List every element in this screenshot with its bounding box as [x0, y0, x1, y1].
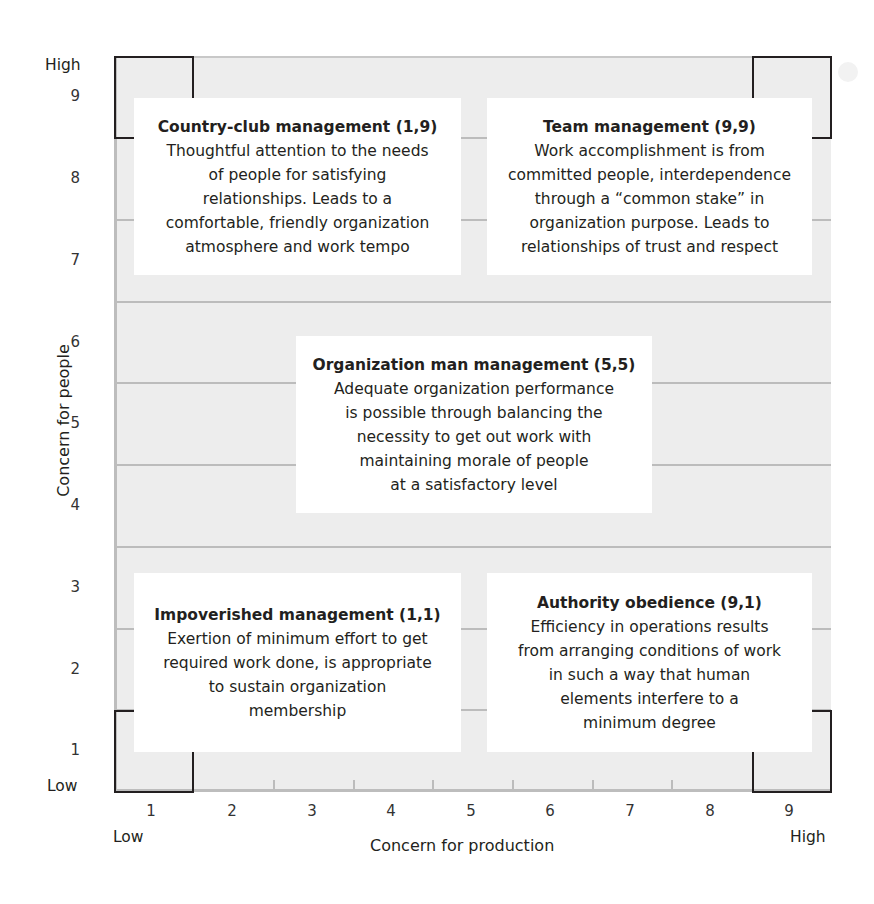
style-box-team: Team management (9,9) Work accomplishmen…: [487, 98, 812, 275]
x-tick-label: 7: [620, 802, 640, 820]
style-description: Exertion of minimum effort to get requir…: [134, 627, 461, 723]
y-tick-label: 3: [60, 578, 80, 596]
style-box-organization-man: Organization man management (5,5) Adequa…: [296, 336, 652, 513]
y-tick-label: 8: [60, 169, 80, 187]
style-title: Country-club management (1,9): [134, 115, 461, 139]
x-tick-label: 1: [141, 802, 161, 820]
style-description: Thoughtful attention to the needs of peo…: [134, 139, 461, 259]
x-axis-low-label: Low: [113, 828, 144, 846]
x-axis-line: [114, 789, 831, 792]
style-title: Organization man management (5,5): [296, 353, 652, 377]
y-axis-high-label: High: [45, 56, 81, 74]
style-description: Efficiency in operations results from ar…: [487, 615, 812, 735]
x-tick-mark: [353, 780, 355, 789]
y-tick-label: 1: [60, 741, 80, 759]
scan-artifact-dot: [838, 62, 858, 82]
y-tick-label: 7: [60, 251, 80, 269]
x-tick-label: 9: [779, 802, 799, 820]
gridline: [117, 546, 831, 548]
style-box-country-club: Country-club management (1,9) Thoughtful…: [134, 98, 461, 275]
plot-top-border: [114, 56, 831, 58]
x-tick-mark: [432, 780, 434, 789]
style-title: Impoverished management (1,1): [134, 603, 461, 627]
y-tick-label: 9: [60, 87, 80, 105]
x-tick-mark: [273, 780, 275, 789]
y-axis-title: Concern for people: [54, 341, 73, 501]
x-tick-label: 3: [302, 802, 322, 820]
style-description: Work accomplishment is from committed pe…: [487, 139, 812, 259]
x-axis-title: Concern for production: [370, 836, 554, 855]
y-axis-low-label: Low: [47, 777, 78, 795]
x-tick-mark: [512, 780, 514, 789]
y-tick-label: 2: [60, 660, 80, 678]
x-tick-label: 5: [461, 802, 481, 820]
x-tick-mark: [592, 780, 594, 789]
style-box-impoverished: Impoverished management (1,1) Exertion o…: [134, 573, 461, 752]
style-title: Team management (9,9): [487, 115, 812, 139]
x-tick-label: 6: [540, 802, 560, 820]
y-axis-line: [114, 56, 117, 792]
style-description: Adequate organization performance is pos…: [296, 377, 652, 497]
style-box-authority-obedience: Authority obedience (9,1) Efficiency in …: [487, 573, 812, 752]
x-tick-label: 2: [222, 802, 242, 820]
x-tick-label: 4: [381, 802, 401, 820]
x-axis-high-label: High: [790, 828, 826, 846]
x-tick-mark: [671, 780, 673, 789]
x-tick-label: 8: [700, 802, 720, 820]
gridline: [117, 301, 831, 303]
style-title: Authority obedience (9,1): [487, 591, 812, 615]
